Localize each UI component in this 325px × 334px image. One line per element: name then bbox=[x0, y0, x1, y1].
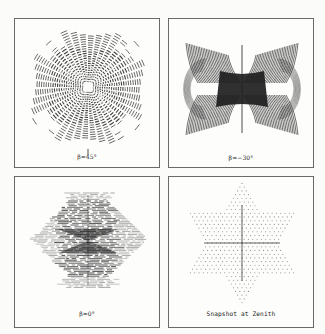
figure: β=45° β=−30° β=0° Snapshot at Zenith bbox=[0, 0, 325, 334]
panel-snapshot-zenith: Snapshot at Zenith bbox=[168, 176, 314, 328]
panel-caption: β=0° bbox=[15, 310, 159, 317]
panel-beta-0: β=0° bbox=[14, 176, 160, 328]
hexagram-dot-plot bbox=[169, 177, 315, 329]
panel-caption: β=45° bbox=[15, 153, 159, 160]
panel-caption: β=−30° bbox=[169, 154, 313, 161]
panel-beta-minus-30: β=−30° bbox=[168, 18, 314, 168]
ring-clover-plot bbox=[15, 19, 161, 169]
panel-beta-45: β=45° bbox=[14, 18, 160, 168]
horizontal-hatch-plot bbox=[15, 177, 161, 329]
bowtie-arcs-plot bbox=[169, 19, 315, 169]
panel-caption: Snapshot at Zenith bbox=[169, 310, 313, 317]
